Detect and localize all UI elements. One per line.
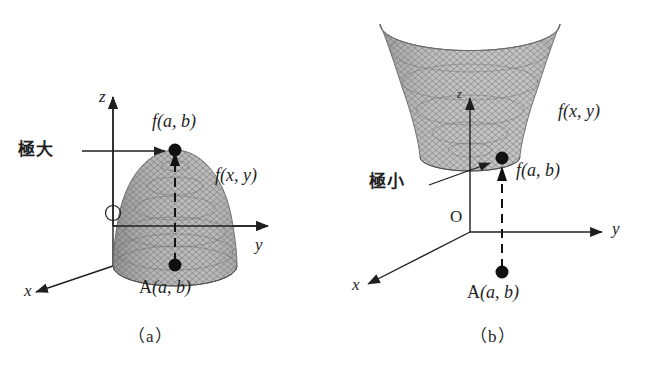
- panel-local-maximum: 極大 f(a, b) f(x, y) AA(a, b)(a, b) z y x …: [0, 0, 324, 372]
- origin-label-b: O: [450, 208, 462, 225]
- label-local-maximum: 極大: [18, 141, 53, 158]
- label-f-x-y-a: f(x, y): [215, 166, 257, 184]
- axis-label-z-b: z: [457, 88, 462, 100]
- label-f-a-b-a: f(a, b): [152, 112, 196, 130]
- caption-panel-b: （b）: [470, 328, 516, 345]
- axis-label-x-b: x: [352, 276, 360, 293]
- caption-panel-a: （a）: [128, 328, 173, 345]
- point-minimum-b: [496, 152, 509, 165]
- point-base-b: [496, 266, 509, 279]
- axis-x-line-b: [368, 232, 470, 284]
- panel-a-graphic: [0, 0, 324, 372]
- label-point-A-b: A(a, b): [467, 283, 519, 301]
- panel-local-minimum: 極小 f(a, b) f(x, y) A(a, b) O z y x （b）: [324, 0, 647, 372]
- label-f-a-b-b: f(a, b): [516, 161, 560, 179]
- axis-label-x-a: x: [24, 282, 32, 299]
- label-local-minimum: 極小: [369, 173, 404, 190]
- axis-label-z-a: z: [99, 88, 106, 105]
- label-point-A-a: AA(a, b)(a, b): [139, 278, 191, 296]
- axis-label-y-b: y: [612, 220, 620, 237]
- figure-extremum-illustration: 極大 f(a, b) f(x, y) AA(a, b)(a, b) z y x …: [0, 0, 647, 372]
- point-base-a: [169, 259, 182, 272]
- axis-x-line-a: [36, 266, 113, 292]
- label-f-x-y-b: f(x, y): [558, 102, 600, 120]
- point-maximum-a: [169, 144, 182, 157]
- axis-label-y-a: y: [255, 236, 263, 253]
